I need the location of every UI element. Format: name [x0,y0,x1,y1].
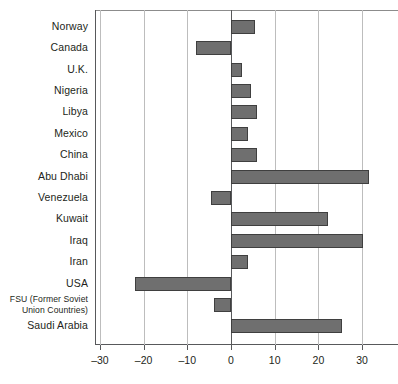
bar-mexico [231,127,248,141]
x-tick-30 [362,345,363,350]
category-label-line1: FSU (Former Soviet [0,294,88,306]
category-label-iraq: Iraq [70,235,89,246]
category-label-usa: USA [66,278,88,289]
category-label-canada: Canada [51,42,88,53]
category-label-nigeria: Nigeria [54,85,88,96]
category-label-norway: Norway [52,21,88,32]
x-tick-label-0: 0 [228,354,234,366]
x-tick-label--20: –20 [135,354,153,366]
bar-iran [231,255,248,269]
bar-abu-dhabi [231,170,369,184]
bar-china [231,148,257,162]
bar-kuwait [231,212,328,226]
plot-top-border [95,10,398,11]
bar-saudi-arabia [231,319,342,333]
bar-norway [231,20,255,34]
bar-canada [196,41,231,55]
x-tick--30 [100,345,101,350]
bar-nigeria [231,84,251,98]
x-tick-label--30: –30 [91,354,109,366]
x-axis: –30–20–100102030 [95,345,398,375]
bar-iraq [231,234,363,248]
bar-u-k [231,63,242,77]
category-label-line2: Union Countries) [0,305,88,317]
category-label-china: China [60,149,88,160]
x-tick--10 [187,345,188,350]
category-label-kuwait: Kuwait [56,213,88,224]
x-tick-10 [275,345,276,350]
category-label-u-k: U.K. [67,64,88,75]
category-label-column: NorwayCanadaU.K.NigeriaLibyaMexicoChinaA… [0,10,94,345]
bar-venezuela [211,191,231,205]
bar-libya [231,105,257,119]
category-label-fsu-former-soviet-union-countries: FSU (Former SovietUnion Countries) [0,294,88,317]
gridline--20 [144,10,145,345]
category-label-venezuela: Venezuela [38,192,88,203]
x-tick-label-20: 20 [313,354,325,366]
x-tick-20 [318,345,319,350]
category-label-iran: Iran [70,256,89,267]
bar-fsu-former-soviet-union-countries [214,298,231,312]
plot-left-border [95,10,96,345]
x-tick-0 [231,345,232,350]
category-label-saudi-arabia: Saudi Arabia [27,320,88,331]
gridline--10 [187,10,188,345]
x-tick--20 [144,345,145,350]
plot-area [95,10,363,345]
bar-usa [135,277,231,291]
category-label-libya: Libya [62,106,88,117]
x-tick-label--10: –10 [179,354,197,366]
x-tick-label-10: 10 [269,354,281,366]
x-tick-label-30: 30 [356,354,368,366]
gridline--30 [100,10,101,345]
category-label-abu-dhabi: Abu Dhabi [38,171,88,182]
category-label-mexico: Mexico [54,128,88,139]
bar-chart: NorwayCanadaU.K.NigeriaLibyaMexicoChinaA… [0,0,398,384]
